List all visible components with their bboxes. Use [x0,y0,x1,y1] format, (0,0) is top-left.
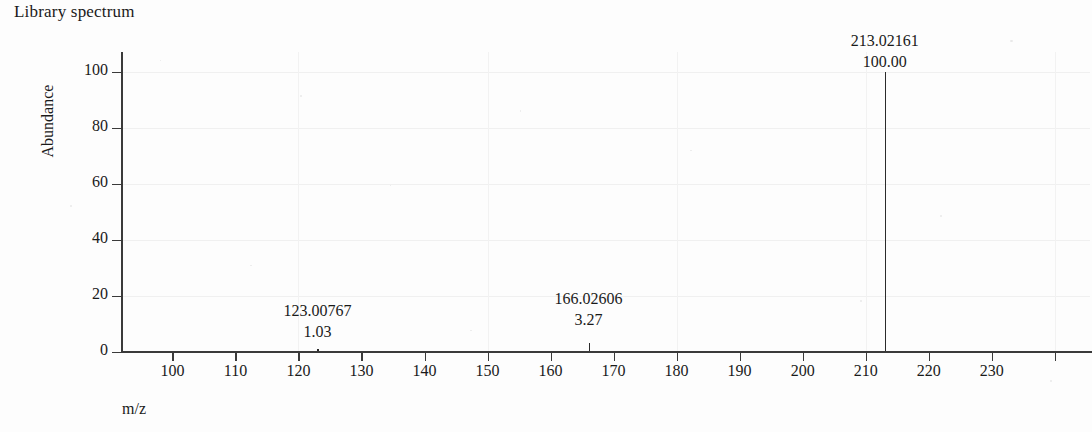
gridline-vertical [866,52,867,352]
scan-speckle [300,95,302,97]
x-axis-tick-label: 180 [647,362,707,380]
y-axis-tick-label: 40 [62,229,108,247]
y-axis-tick-label: 20 [62,285,108,303]
scan-speckle [470,330,472,331]
x-axis-tick-label: 150 [458,362,518,380]
figure-title: Library spectrum [14,2,135,22]
gridline-horizontal [122,128,1090,129]
x-axis-tick [298,352,299,361]
x-axis-tick [614,352,615,361]
x-axis-line [122,351,1092,353]
peak-abundance-label: 100.00 [785,51,985,72]
x-axis-title: m/z [122,400,146,418]
peak-mz-label: 123.00767 [217,300,417,321]
x-axis-tick [929,352,930,361]
scan-speckle [690,150,692,151]
x-axis-tick-label: 190 [710,362,770,380]
x-axis-tick [551,352,552,361]
x-axis-tick-label: 220 [899,362,959,380]
x-axis-tick-label: 170 [584,362,644,380]
y-axis-tick [112,296,122,297]
x-axis-tick [172,352,173,361]
x-axis-tick-label: 130 [331,362,391,380]
scan-speckle [860,300,862,302]
x-axis-tick [677,352,678,361]
x-axis-tick [740,352,741,361]
x-axis-tick [235,352,236,361]
library-spectrum-figure: Library spectrum Abundance m/z 020406080… [0,0,1092,432]
y-axis-tick [112,352,122,353]
y-axis-title: Abundance [39,51,57,191]
peak-mz-label: 213.02161 [785,30,985,51]
x-axis-tick [866,352,867,361]
scan-speckle [160,60,161,61]
gridline-horizontal [122,72,1090,73]
x-axis-tick-label: 210 [836,362,896,380]
y-axis-line [121,52,123,353]
x-axis-tick-label: 160 [521,362,581,380]
x-axis-tick-label: 140 [395,362,455,380]
y-axis-tick-label: 0 [62,341,108,359]
y-axis-tick [112,128,122,129]
scan-speckle [940,215,942,217]
x-axis-tick-label: 110 [205,362,265,380]
x-axis-tick [425,352,426,361]
gridline-vertical [1055,52,1056,352]
x-axis-tick [1055,352,1056,361]
gridline-horizontal [122,240,1090,241]
scan-speckle [70,205,72,207]
scan-speckle [390,185,391,186]
peak-annotation: 123.007671.03 [217,300,417,342]
x-axis-tick-label: 120 [268,362,328,380]
x-axis-tick [488,352,489,361]
y-axis-tick-label: 80 [62,117,108,135]
peak-annotation: 166.026063.27 [489,288,689,330]
x-axis-tick-label: 100 [142,362,202,380]
scan-speckle [250,265,252,266]
scan-speckle [1010,40,1013,42]
peak-annotation: 213.02161100.00 [785,30,985,72]
scan-speckle [520,110,521,112]
x-axis-tick-label: 230 [962,362,1022,380]
peak-abundance-label: 3.27 [489,309,689,330]
x-axis-tick-label: 200 [773,362,833,380]
y-axis-tick [112,184,122,185]
x-axis-tick [992,352,993,361]
y-axis-tick [112,72,122,73]
x-axis-tick [803,352,804,361]
peak-abundance-label: 1.03 [217,321,417,342]
scan-speckle [1050,380,1052,382]
gridline-horizontal [122,184,1090,185]
y-axis-tick-label: 100 [62,61,108,79]
y-axis-tick [112,240,122,241]
peak-mz-label: 166.02606 [489,288,689,309]
y-axis-tick-label: 60 [62,173,108,191]
x-axis-tick [361,352,362,361]
spectrum-peak [885,72,886,352]
